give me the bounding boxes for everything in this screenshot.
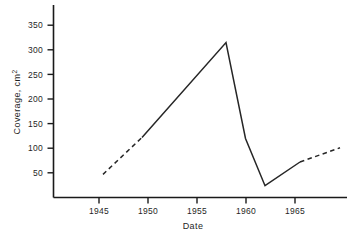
- y-tick-label-100: 100: [28, 143, 43, 153]
- x-tick-label-1960: 1960: [236, 206, 256, 216]
- y-axis-title-base: Coverage, cm: [12, 74, 22, 135]
- y-tick-label-300: 300: [28, 45, 43, 55]
- x-tick-label-1965: 1965: [285, 206, 305, 216]
- line-chart: 350 300 250 200 150 100 50 1945 1950 195…: [0, 0, 349, 235]
- plot-background: [0, 0, 349, 235]
- y-tick-label-200: 200: [28, 94, 43, 104]
- x-tick-label-1950: 1950: [138, 206, 158, 216]
- x-axis-title: Date: [183, 221, 204, 231]
- x-tick-label-1955: 1955: [187, 206, 207, 216]
- y-tick-label-150: 150: [28, 119, 43, 129]
- chart-figure: 350 300 250 200 150 100 50 1945 1950 195…: [0, 0, 349, 235]
- svg-text:Coverage, cm2: Coverage, cm2: [11, 70, 22, 135]
- x-tick-label-1945: 1945: [89, 206, 109, 216]
- y-axis-title: Coverage, cm2: [11, 70, 22, 135]
- y-tick-label-50: 50: [33, 168, 43, 178]
- y-tick-label-250: 250: [28, 70, 43, 80]
- y-tick-label-350: 350: [28, 20, 43, 30]
- y-axis-title-superscript: 2: [11, 70, 18, 74]
